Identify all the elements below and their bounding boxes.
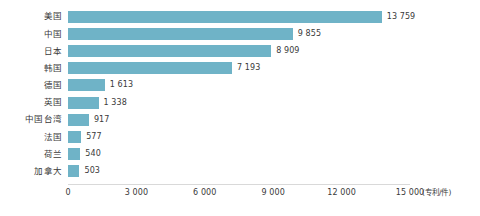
bar-value-label: 13 759 (387, 13, 416, 21)
category-label: 荷兰 (0, 150, 62, 159)
bar-segment[interactable] (68, 28, 293, 40)
bar-value-label: 1 613 (110, 81, 133, 89)
bar-value-label: 8 909 (276, 47, 299, 55)
chart-row: 法国 577 (0, 128, 480, 145)
bar-chart: 美国 13 759 中国 9 855 日本 8 909 韩国 7 (0, 0, 480, 216)
chart-row: 英国 1 338 (0, 94, 480, 111)
bar-container: 577 (68, 131, 476, 143)
x-axis-tick-label: 12 000 (327, 189, 356, 197)
category-label: 加拿大 (0, 167, 62, 176)
bar-container: 540 (68, 148, 476, 160)
bar-value-label: 7 193 (237, 64, 260, 72)
bar-container: 13 759 (68, 11, 476, 23)
bar-segment[interactable] (68, 62, 232, 74)
chart-row: 中国 9 855 (0, 25, 480, 42)
category-label: 英国 (0, 98, 62, 107)
category-label: 法国 (0, 133, 62, 142)
bar-segment[interactable] (68, 148, 80, 160)
bar-value-label: 9 855 (298, 30, 321, 38)
chart-row: 加拿大 503 (0, 163, 480, 180)
x-axis: (专利/件) 03 0006 0009 00012 00015 000 (0, 184, 480, 216)
bar-segment[interactable] (68, 97, 99, 109)
bar-container: 503 (68, 165, 476, 177)
chart-row: 日本 8 909 (0, 42, 480, 59)
bar-segment[interactable] (68, 114, 89, 126)
x-axis-tick-label: 3 000 (125, 189, 148, 197)
bar-container: 7 193 (68, 62, 476, 74)
x-axis-tick-label: 6 000 (193, 189, 216, 197)
bar-value-label: 503 (84, 167, 100, 175)
chart-row: 韩国 7 193 (0, 60, 480, 77)
category-label: 德国 (0, 81, 62, 90)
bar-segment[interactable] (68, 79, 105, 91)
x-axis-tick-label: 15 000 (396, 189, 425, 197)
x-axis-unit-label: (专利/件) (422, 189, 451, 197)
bar-container: 8 909 (68, 45, 476, 57)
category-label: 美国 (0, 12, 62, 21)
chart-row: 美国 13 759 (0, 8, 480, 25)
bar-value-label: 917 (94, 116, 110, 124)
chart-row: 荷兰 540 (0, 146, 480, 163)
bar-segment[interactable] (68, 131, 81, 143)
category-label: 日本 (0, 47, 62, 56)
chart-row: 德国 1 613 (0, 77, 480, 94)
category-label: 韩国 (0, 64, 62, 73)
bar-segment[interactable] (68, 45, 271, 57)
bar-segment[interactable] (68, 165, 79, 177)
x-axis-tick-label: 9 000 (261, 189, 284, 197)
bar-value-label: 577 (86, 133, 102, 141)
bar-segment[interactable] (68, 11, 382, 23)
x-axis-line (68, 184, 410, 185)
chart-row: 中国台湾 917 (0, 111, 480, 128)
bar-container: 1 338 (68, 97, 476, 109)
bar-container: 9 855 (68, 28, 476, 40)
chart-plot-area: 美国 13 759 中国 9 855 日本 8 909 韩国 7 (0, 8, 480, 184)
bar-value-label: 540 (85, 150, 101, 158)
category-label: 中国台湾 (0, 115, 62, 124)
bar-value-label: 1 338 (104, 99, 127, 107)
bar-container: 1 613 (68, 79, 476, 91)
x-axis-tick-label: 0 (65, 189, 70, 197)
bar-container: 917 (68, 114, 476, 126)
category-label: 中国 (0, 30, 62, 39)
